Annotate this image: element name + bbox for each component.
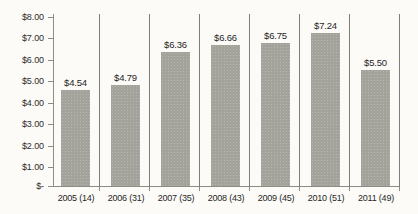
category-separator	[99, 14, 100, 187]
bar	[61, 90, 90, 186]
bar-value-label: $4.54	[56, 78, 95, 88]
category-separator	[399, 14, 400, 187]
y-axis-tick-label: $5.00	[0, 77, 44, 86]
y-axis-tick-label: $2.00	[0, 142, 44, 151]
y-axis-tick-label: $4.00	[0, 99, 44, 108]
x-axis-category-label: 2010 (51)	[303, 193, 349, 203]
x-axis-category-label: 2008 (43)	[203, 193, 249, 203]
category-separator	[199, 14, 200, 187]
category-separator	[249, 14, 250, 187]
x-axis-category-label: 2005 (14)	[53, 193, 99, 203]
bar	[111, 85, 140, 186]
bar	[211, 45, 240, 186]
y-axis-tick-label: $6.00	[0, 56, 44, 65]
x-axis-tick	[299, 187, 300, 191]
bar-value-label: $6.75	[256, 31, 295, 41]
y-axis-tick-label: $7.00	[0, 34, 44, 43]
bar-value-label: $6.36	[156, 40, 195, 50]
x-axis-category-label: 2009 (45)	[253, 193, 299, 203]
bar	[161, 52, 190, 186]
y-axis-line	[53, 14, 54, 187]
category-separator	[349, 14, 350, 187]
bar	[311, 33, 340, 186]
x-axis-category-label: 2007 (35)	[153, 193, 199, 203]
category-separator	[149, 14, 150, 187]
y-axis-tick-label: $-	[0, 182, 44, 191]
x-axis-tick	[399, 187, 400, 191]
y-axis-tick-label: $1.00	[0, 163, 44, 172]
x-axis-tick	[149, 187, 150, 191]
x-axis-tick	[199, 187, 200, 191]
x-axis-tick	[99, 187, 100, 191]
bar-value-label: $4.79	[106, 73, 145, 83]
category-separator	[299, 14, 300, 187]
y-axis-tick-label: $3.00	[0, 120, 44, 129]
x-axis-category-label: 2011 (49)	[353, 193, 399, 203]
bar-value-label: $7.24	[306, 21, 345, 31]
x-axis-tick	[249, 187, 250, 191]
y-axis-tick-label: $8.00	[0, 13, 44, 22]
x-axis-category-label: 2006 (31)	[103, 193, 149, 203]
bar	[261, 43, 290, 186]
x-axis-tick	[349, 187, 350, 191]
x-axis-line	[53, 186, 400, 187]
bar	[361, 70, 390, 186]
bar-value-label: $5.50	[356, 58, 395, 68]
bar-chart: $8.00 $7.00 $6.00 $5.00 $4.00 $3.00 $2.0…	[0, 0, 418, 214]
bar-value-label: $6.66	[206, 33, 245, 43]
